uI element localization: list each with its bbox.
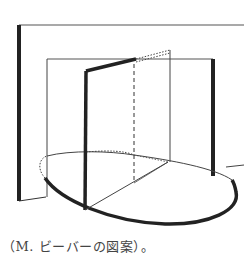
ellipse-floor [40, 151, 237, 224]
revolving-door-diagram [0, 0, 244, 262]
back-panel [19, 25, 244, 201]
door-panel [85, 50, 170, 210]
figure-caption: （M. ビーバーの図案）。 [2, 236, 244, 255]
